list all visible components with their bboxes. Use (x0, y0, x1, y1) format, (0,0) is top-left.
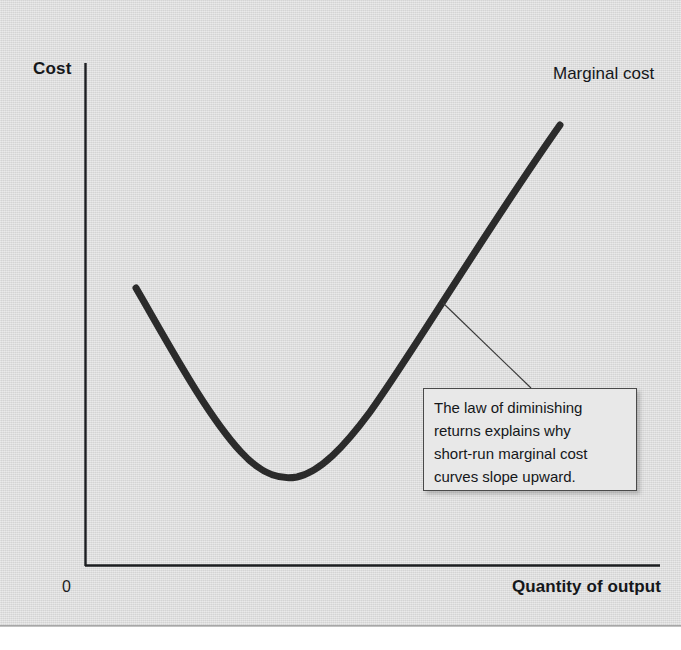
figure-container: Cost 0 Quantity of output Marginal cost … (0, 0, 681, 650)
callout-leader-line (443, 303, 531, 388)
axis-origin-label: 0 (62, 578, 71, 596)
diminishing-returns-callout: The law of diminishing returns explains … (423, 388, 637, 491)
callout-line-1: The law of diminishing (434, 396, 632, 419)
figure-bottom-rule (0, 625, 681, 627)
callout-line-2: returns explains why (434, 419, 632, 442)
marginal-cost-label-line2: cost (623, 64, 654, 83)
callout-line-3: short-run marginal cost (434, 442, 632, 465)
chart-plot-area (0, 0, 681, 650)
marginal-cost-label: Marginal cost (553, 62, 654, 86)
marginal-cost-label-line1: Marginal (553, 64, 618, 83)
x-axis-label: Quantity of output (421, 577, 661, 597)
callout-line-4: curves slope upward. (434, 465, 632, 488)
callout-text-block: The law of diminishing returns explains … (434, 396, 632, 488)
y-axis-label: Cost (33, 59, 72, 79)
